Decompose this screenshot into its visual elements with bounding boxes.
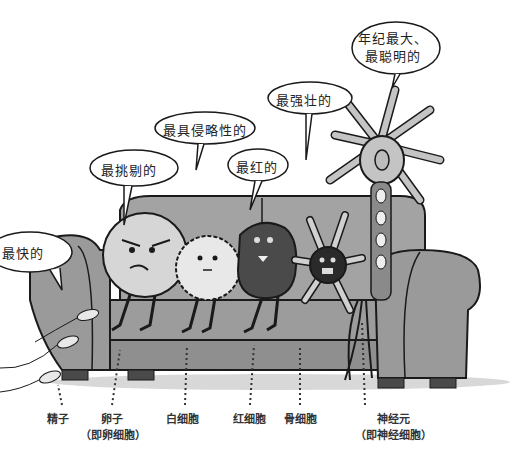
label-neuron-sub: （即神经细胞）: [353, 426, 433, 442]
cells-on-couch-illustration: [0, 0, 526, 464]
label-red-blood: 红细胞: [233, 410, 266, 426]
label-bone-name: 骨细胞: [284, 413, 317, 426]
bubble-text-white-blood: 最具侵略性的: [163, 120, 247, 139]
bubble-text-neuron: 年纪最大、 最聪明的: [358, 30, 428, 66]
label-egg-sub: （即卵细胞）: [80, 426, 144, 442]
couch-leg: [128, 370, 154, 380]
couch-leg: [62, 370, 88, 380]
bubble-text-neuron-line1: 年纪最大、: [358, 30, 428, 48]
label-sperm: 精子: [47, 410, 69, 426]
bubble-text-bone: 最强壮的: [276, 90, 332, 109]
bubble-text-red-blood: 最红的: [236, 157, 278, 176]
label-neuron-name: 神经元: [377, 413, 410, 426]
label-sperm-name: 精子: [47, 413, 69, 426]
label-red-blood-name: 红细胞: [233, 413, 266, 426]
label-bone: 骨细胞: [284, 410, 317, 426]
label-white-blood-name: 白细胞: [166, 413, 199, 426]
couch-leg: [430, 378, 456, 388]
label-white-blood: 白细胞: [166, 410, 199, 426]
label-egg: 卵子 （即卵细胞）: [80, 410, 144, 442]
label-neuron: 神经元 （即神经细胞）: [353, 410, 433, 442]
bubble-text-egg: 最挑剔的: [101, 160, 157, 179]
label-egg-name: 卵子: [101, 413, 123, 426]
bubble-text-sperm: 最快的: [2, 243, 44, 262]
couch-leg: [378, 378, 404, 388]
bubble-text-neuron-line2: 最聪明的: [358, 48, 428, 66]
